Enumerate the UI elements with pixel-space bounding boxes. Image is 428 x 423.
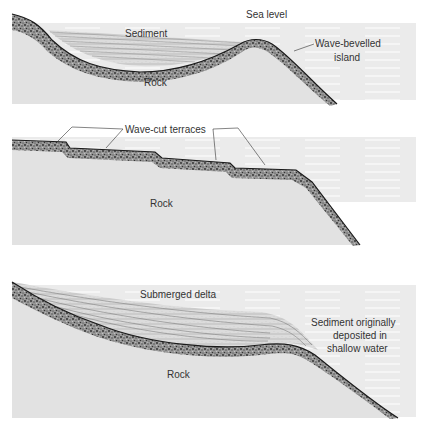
label-sediment-line1: Sediment originally (311, 317, 396, 328)
label-rock-1: Rock (144, 77, 168, 88)
label-terraces: Wave-cut terraces (125, 124, 206, 135)
label-island-line2: island (334, 52, 360, 63)
label-rock-3: Rock (167, 369, 191, 380)
label-sediment-line2: deposited in (333, 330, 387, 341)
panel-delta: Submerged delta Sediment originally depo… (12, 282, 416, 419)
panel-island: Sea level Sediment Wave-bevelled island … (12, 9, 416, 106)
label-sediment: Sediment (125, 28, 167, 39)
diagram-canvas: Sea level Sediment Wave-bevelled island … (0, 0, 428, 423)
label-rock-2: Rock (150, 198, 174, 209)
label-sediment-line3: shallow water (327, 343, 388, 354)
label-sea-level: Sea level (246, 9, 287, 20)
label-island-line1: Wave-bevelled (315, 38, 381, 49)
label-delta: Submerged delta (140, 289, 217, 300)
panel-terraces: Wave-cut terraces Rock (12, 124, 416, 246)
